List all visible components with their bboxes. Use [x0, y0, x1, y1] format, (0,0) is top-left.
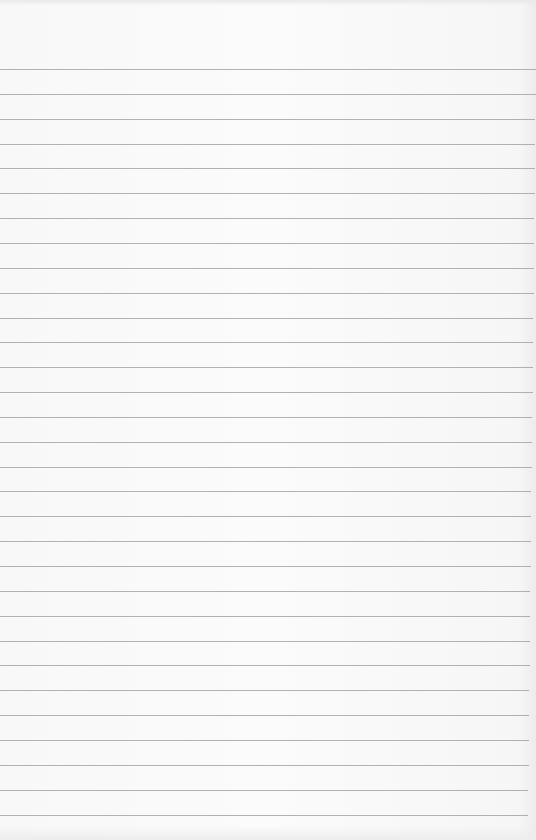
ruled-line — [0, 193, 535, 194]
ruled-line — [0, 367, 533, 368]
ruled-line — [0, 69, 536, 70]
ruled-line — [0, 442, 532, 443]
ruled-line — [0, 715, 529, 716]
ruled-line — [0, 119, 535, 120]
ruled-line — [0, 318, 533, 319]
ruled-line — [0, 392, 533, 393]
ruled-line — [0, 641, 530, 642]
ruled-line — [0, 342, 533, 343]
ruled-line — [0, 566, 531, 567]
ruled-line — [0, 740, 529, 741]
ruled-line — [0, 516, 531, 517]
ruled-line — [0, 268, 534, 269]
ruled-line — [0, 467, 532, 468]
ruled-line — [0, 168, 535, 169]
ruled-line — [0, 591, 530, 592]
lined-paper — [0, 0, 536, 840]
ruled-line — [0, 218, 534, 219]
ruled-line — [0, 243, 534, 244]
ruled-line — [0, 790, 528, 791]
ruled-line — [0, 144, 535, 145]
ruled-line — [0, 417, 532, 418]
ruled-line — [0, 541, 531, 542]
ruled-line — [0, 765, 529, 766]
ruled-line — [0, 665, 530, 666]
ruled-line — [0, 94, 536, 95]
ruled-line — [0, 616, 530, 617]
ruled-line — [0, 293, 534, 294]
ruled-line — [0, 815, 528, 816]
ruled-line — [0, 491, 531, 492]
ruled-line — [0, 690, 529, 691]
